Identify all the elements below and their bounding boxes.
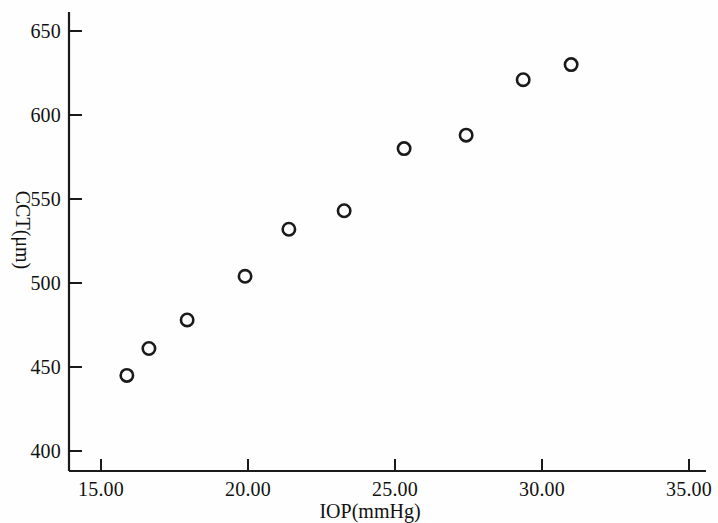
y-tick-label-450: 450 [4, 356, 61, 379]
data-point [181, 314, 193, 326]
y-tick-label-600: 600 [4, 104, 61, 127]
scatter-plot-figure: 650 600 550 500 450 400 15.00 20.00 25.0… [0, 0, 718, 523]
y-axis-ticks [69, 31, 82, 451]
axis-lines [69, 12, 706, 471]
x-tick-label-30: 30.00 [519, 478, 565, 501]
data-point [239, 270, 251, 282]
data-point [338, 205, 350, 217]
y-tick-label-400: 400 [4, 440, 61, 463]
data-point [517, 74, 529, 86]
x-tick-label-35: 35.00 [666, 478, 712, 501]
y-tick-label-500: 500 [4, 272, 61, 295]
x-axis-title: IOP(mmHg) [319, 500, 420, 523]
data-point [460, 129, 472, 141]
x-axis-ticks [101, 459, 689, 471]
y-tick-label-650: 650 [4, 20, 61, 43]
data-point [565, 58, 577, 70]
x-tick-label-20: 20.00 [225, 478, 271, 501]
data-point [398, 142, 410, 154]
data-point-group [121, 58, 578, 381]
x-tick-label-25: 25.00 [372, 478, 418, 501]
data-point [143, 342, 155, 354]
x-tick-label-15: 15.00 [78, 478, 124, 501]
data-point [121, 369, 133, 381]
y-axis-title: CCT(μm) [11, 191, 34, 270]
data-point [283, 223, 295, 235]
plot-canvas [0, 0, 718, 523]
